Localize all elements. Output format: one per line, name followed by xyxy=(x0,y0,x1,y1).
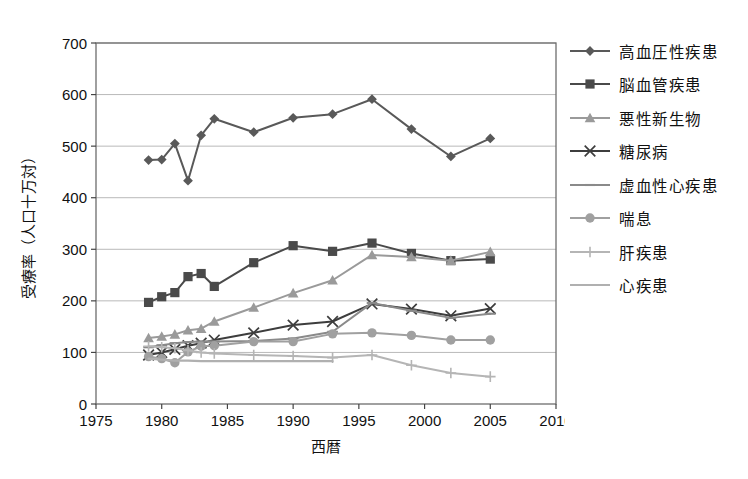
series-marker xyxy=(367,328,376,337)
chart-page: 0100200300400500600700197519801985199019… xyxy=(0,0,748,479)
x-axis-tick-label: 1995 xyxy=(342,412,375,429)
legend-item-2[interactable]: 脳血管疾患 xyxy=(570,68,746,102)
legend-marker-icon xyxy=(582,210,598,226)
legend-marker-icon xyxy=(582,244,598,260)
series-marker xyxy=(328,109,338,119)
series-marker xyxy=(209,348,220,359)
legend-marker-icon xyxy=(582,76,598,92)
y-axis-tick-label: 600 xyxy=(62,86,87,103)
series-marker xyxy=(157,292,166,301)
x-axis-tick-label: 2005 xyxy=(474,412,507,429)
legend-key-icon xyxy=(570,77,610,91)
series-marker xyxy=(144,298,153,307)
legend-item-1[interactable]: 高血圧性疾患 xyxy=(570,34,746,68)
series-marker xyxy=(289,241,298,250)
series-marker xyxy=(446,335,455,344)
series-marker xyxy=(248,350,259,361)
legend-marker-shape xyxy=(585,246,596,257)
y-axis-tick-label: 500 xyxy=(62,138,87,155)
x-axis-tick-label: 1980 xyxy=(145,412,178,429)
legend-key-icon xyxy=(570,144,610,158)
chart-canvas: 0100200300400500600700197519801985199019… xyxy=(0,0,565,479)
series-marker xyxy=(249,258,258,267)
legend-item-label: 糖尿病 xyxy=(619,140,669,162)
series-marker xyxy=(485,247,496,257)
chart-legend: 高血圧性疾患脳血管疾患悪性新生物糖尿病虚血性心疾患喘息肝疾患心疾患 xyxy=(570,34,746,302)
legend-item-label: 肝疾患 xyxy=(619,241,669,263)
x-axis-tick-label: 2010 xyxy=(539,412,565,429)
series-marker xyxy=(486,335,495,344)
legend-marker-icon xyxy=(582,43,598,59)
legend-item-5[interactable]: 虚血性心疾患 xyxy=(570,168,746,202)
legend-item-7[interactable]: 肝疾患 xyxy=(570,235,746,269)
series-marker xyxy=(367,350,378,361)
legend-marker-icon xyxy=(582,177,598,193)
y-axis-tick-label: 700 xyxy=(62,35,87,52)
legend-line xyxy=(570,284,610,286)
series-marker xyxy=(170,288,179,297)
x-axis-tick-label: 2000 xyxy=(408,412,441,429)
legend-marker-icon xyxy=(582,143,598,159)
legend-item-8[interactable]: 心疾患 xyxy=(570,269,746,303)
legend-item-6[interactable]: 喘息 xyxy=(570,202,746,236)
legend-item-3[interactable]: 悪性新生物 xyxy=(570,101,746,135)
series-3 xyxy=(143,247,495,343)
legend-marker-shape xyxy=(585,214,594,223)
series-marker xyxy=(446,368,457,379)
legend-key-icon xyxy=(570,111,610,125)
y-axis-tick-label: 100 xyxy=(62,344,87,361)
x-axis-tick-label: 1975 xyxy=(79,412,112,429)
legend-marker-icon xyxy=(582,110,598,126)
series-marker xyxy=(406,360,417,371)
series-1 xyxy=(144,94,496,185)
legend-key-icon xyxy=(570,278,610,292)
legend-marker-shape xyxy=(585,112,596,122)
series-marker xyxy=(327,275,338,285)
x-axis-title: 西暦 xyxy=(311,438,341,455)
y-axis-tick-label: 200 xyxy=(62,292,87,309)
legend-item-label: 高血圧性疾患 xyxy=(619,40,718,62)
series-5 xyxy=(143,303,495,347)
series-marker xyxy=(144,155,154,165)
series-line xyxy=(149,252,491,338)
series-group xyxy=(143,94,495,382)
y-axis-tick-label: 400 xyxy=(62,189,87,206)
series-marker xyxy=(288,113,298,123)
series-marker xyxy=(288,337,297,346)
series-marker xyxy=(328,329,337,338)
series-marker xyxy=(210,282,219,291)
legend-item-label: 脳血管疾患 xyxy=(619,73,702,95)
legend-marker-shape xyxy=(585,146,596,157)
x-axis-tick-label: 1990 xyxy=(276,412,309,429)
series-marker xyxy=(249,127,259,137)
series-line xyxy=(149,99,491,180)
x-axis-tick-label: 1985 xyxy=(211,412,244,429)
series-marker xyxy=(328,247,337,256)
legend-key-icon xyxy=(570,245,610,259)
y-axis-tick-label: 0 xyxy=(79,396,87,413)
legend-item-label: 喘息 xyxy=(619,207,652,229)
line-chart: 0100200300400500600700197519801985199019… xyxy=(0,0,565,479)
series-marker xyxy=(367,238,376,247)
series-2 xyxy=(144,238,495,307)
series-marker xyxy=(183,272,192,281)
legend-key-icon xyxy=(570,211,610,225)
legend-item-4[interactable]: 糖尿病 xyxy=(570,135,746,169)
series-marker xyxy=(197,269,206,278)
legend-item-label: 心疾患 xyxy=(619,274,669,296)
series-marker xyxy=(407,331,416,340)
legend-item-label: 虚血性心疾患 xyxy=(619,174,718,196)
y-axis-title: 受療率（人口十万対） xyxy=(20,149,37,299)
series-marker xyxy=(143,341,154,352)
legend-marker-shape xyxy=(585,80,594,89)
series-marker xyxy=(485,134,495,144)
series-marker xyxy=(183,176,193,186)
legend-key-icon xyxy=(570,44,610,58)
series-marker xyxy=(249,337,258,346)
y-axis-tick-label: 300 xyxy=(62,241,87,258)
series-marker xyxy=(485,371,496,382)
legend-item-label: 悪性新生物 xyxy=(619,107,702,129)
legend-key-icon xyxy=(570,178,610,192)
legend-marker-shape xyxy=(585,46,595,56)
